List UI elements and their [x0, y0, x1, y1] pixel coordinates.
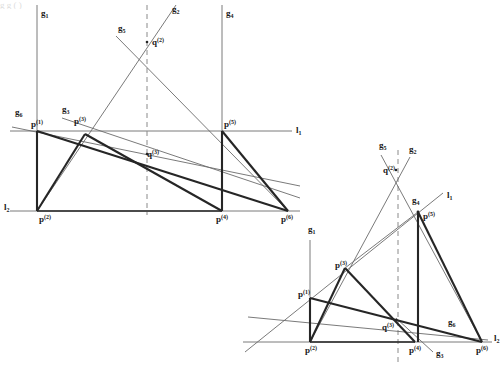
- label-g3-right: g3: [436, 348, 444, 359]
- left-seg-p5-p6: [222, 131, 288, 211]
- label-g3: g3: [62, 104, 70, 115]
- label-l2-right: l2: [494, 333, 500, 344]
- label-p5-right: p(5): [423, 211, 435, 221]
- label-g6-right: g6: [448, 317, 456, 328]
- label-p4-right: p(4): [409, 345, 421, 355]
- right-seg-p3-p5: [345, 212, 418, 268]
- right-vertex-q2: [395, 169, 398, 172]
- right-vertex-q3: [395, 319, 398, 322]
- label-q2: q(2): [152, 37, 164, 47]
- label-p1-right: p(1): [298, 289, 310, 299]
- label-p2-right: p(2): [305, 345, 317, 355]
- label-g4: g4: [226, 8, 234, 19]
- label-p2: p(2): [39, 214, 51, 224]
- right-seg-p3-q3-p4: [345, 268, 415, 342]
- label-l1: l1: [296, 125, 302, 136]
- label-p5: p(5): [224, 119, 236, 129]
- left-line-g5: [116, 36, 288, 211]
- label-g1: g1: [41, 8, 49, 19]
- label-g2-right: g2: [409, 144, 417, 155]
- left-seg-p1-q3-p6: [37, 131, 288, 211]
- left-line-g3: [62, 118, 300, 198]
- label-p4: p(4): [216, 214, 228, 224]
- geometry-figure-root: g1 g2 g5 g4 g3 g6 l1 l2 q(2) q(3) p(1) p…: [0, 0, 504, 369]
- left-vertex-q2: [146, 41, 149, 44]
- label-q3: q(3): [147, 149, 159, 159]
- label-g6: g6: [15, 107, 23, 118]
- label-p6: p(6): [281, 214, 293, 224]
- left-seg-p2-p3: [37, 134, 85, 211]
- left-configuration: g1 g2 g5 g4 g3 g6 l1 l2 q(2) q(3) p(1) p…: [4, 4, 302, 224]
- geometry-canvas: g1 g2 g5 g4 g3 g6 l1 l2 q(2) q(3) p(1) p…: [0, 0, 504, 369]
- label-g5-right: g5: [379, 140, 387, 151]
- label-g2: g2: [172, 4, 180, 15]
- label-g5: g5: [118, 23, 126, 34]
- label-q2-right: q(2): [383, 165, 395, 175]
- label-p6-right: p(6): [476, 345, 488, 355]
- label-l1-right: l1: [447, 190, 453, 201]
- left-line-g2: [37, 5, 176, 211]
- right-line-g2: [310, 157, 410, 342]
- right-vertex-p5: [417, 211, 420, 214]
- label-g1-right: g1: [308, 224, 316, 235]
- right-configuration: g5 g2 g4 l1 g1 g6 g3 l2 q(2) q(3) p(5) p…: [243, 140, 500, 365]
- left-seg-p3-q3-p4: [85, 134, 222, 211]
- label-g4-right: g4: [412, 195, 420, 206]
- label-l2: l2: [4, 202, 10, 213]
